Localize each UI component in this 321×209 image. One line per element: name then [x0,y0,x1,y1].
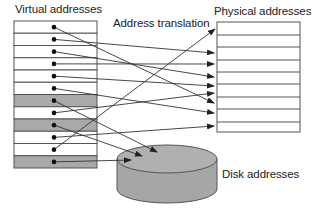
page-pointer-dot [52,98,57,103]
physical-addresses-label: Physical addresses [214,5,311,17]
page-pointer-dot [52,25,57,30]
disk-top [117,145,217,173]
page-pointer-dot [52,62,57,67]
physical-table-frame [217,22,300,132]
page-pointer-dot [52,74,57,79]
virtual-addresses-label: Virtual addresses [15,3,102,15]
page-pointer-dot [52,49,57,54]
page-pointer-dot [52,123,57,128]
page-pointer-dot [52,147,57,152]
physical-address-table [217,22,300,132]
page-pointer-dot [52,135,57,140]
virtual-address-table [14,21,97,168]
disk-addresses-label: Disk addresses [222,168,299,180]
disk-icon [117,145,217,203]
page-pointer-dot [52,160,57,165]
address-translation-label: Address translation [113,17,210,29]
page-pointer-dot [52,86,57,91]
page-pointer-dot [52,37,57,42]
page-pointer-dot [52,111,57,116]
virtual-memory-diagram: Virtual addresses Address translation Ph… [0,0,321,209]
